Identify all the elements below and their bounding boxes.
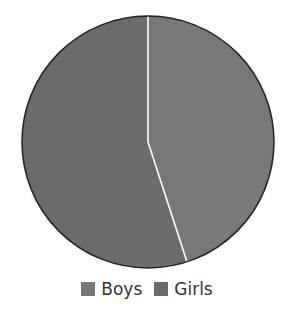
legend-label-boys: Boys — [101, 279, 142, 299]
legend-swatch-girls — [154, 282, 168, 296]
legend-label-girls: Girls — [174, 279, 212, 299]
legend-item-boys: Boys — [81, 279, 142, 299]
legend: Boys Girls — [0, 279, 294, 299]
pie-slices — [22, 16, 274, 268]
legend-swatch-boys — [81, 282, 95, 296]
legend-item-girls: Girls — [154, 279, 212, 299]
pie-chart — [0, 0, 294, 275]
